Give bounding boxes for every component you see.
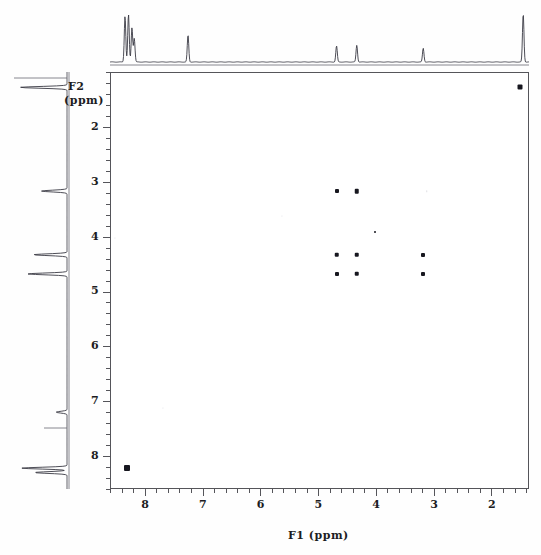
y-axis-major-tick <box>103 456 110 457</box>
y-axis-major-tick <box>103 346 110 347</box>
x-axis-minor-tick <box>295 489 296 493</box>
cross-peak <box>421 253 425 257</box>
y-axis-tick-label: 7 <box>91 394 99 407</box>
f1-1d-projection <box>110 10 529 68</box>
x-axis-minor-tick <box>387 489 388 493</box>
y-axis-major-tick <box>103 182 110 183</box>
x-axis-tick-label: 8 <box>141 498 149 511</box>
x-axis-title: F1 (ppm) <box>288 529 349 542</box>
y-axis-tick-label: 5 <box>91 284 99 297</box>
x-axis-major-tick <box>376 489 377 496</box>
x-axis-minor-tick <box>272 489 273 493</box>
x-axis-minor-tick <box>353 489 354 493</box>
faint-artifact-peak <box>281 215 282 216</box>
cross-peak <box>335 272 339 276</box>
nmr-spectrum-figure: F2 (ppm) F1 (ppm) 8765432 2345678 <box>0 0 541 555</box>
cross-peak <box>335 189 339 193</box>
y-axis-tick-label: 2 <box>91 120 99 133</box>
f1-projection-path <box>110 15 529 62</box>
x-axis-major-tick <box>434 489 435 496</box>
x-axis-minor-tick <box>133 489 134 493</box>
x-axis-minor-tick <box>191 489 192 493</box>
cross-peak <box>518 85 523 90</box>
x-axis-minor-tick <box>330 489 331 493</box>
x-axis-minor-tick <box>445 489 446 493</box>
y-axis-minor-tick <box>106 489 110 490</box>
x-axis-minor-tick <box>422 489 423 493</box>
x-axis-minor-tick <box>399 489 400 493</box>
faint-artifact-peak <box>163 407 164 408</box>
x-axis-tick-label: 4 <box>372 498 380 511</box>
x-axis-minor-tick <box>226 489 227 493</box>
y-axis-tick-label: 4 <box>91 230 99 243</box>
x-axis-minor-tick <box>364 489 365 493</box>
cross-peak <box>355 272 360 277</box>
x-axis-major-tick <box>491 489 492 496</box>
cross-peak-layer <box>110 72 529 489</box>
x-axis-minor-tick <box>307 489 308 493</box>
y-axis-title-line1: F2 <box>68 80 84 93</box>
x-axis-minor-tick <box>283 489 284 493</box>
y-axis-major-tick <box>103 127 110 128</box>
x-axis-minor-tick <box>457 489 458 493</box>
x-axis-minor-tick <box>341 489 342 493</box>
x-axis-tick-label: 3 <box>430 498 438 511</box>
y-axis-tick-label: 3 <box>91 175 99 188</box>
x-axis-major-tick <box>145 489 146 496</box>
x-axis-major-tick <box>260 489 261 496</box>
y-axis-tick-label: 8 <box>91 449 99 462</box>
x-axis-tick-label: 6 <box>257 498 265 511</box>
cross-peak <box>355 252 360 257</box>
x-axis-tick-label: 7 <box>199 498 207 511</box>
x-axis-minor-tick <box>468 489 469 493</box>
x-axis-tick-label: 2 <box>488 498 496 511</box>
x-axis-minor-tick <box>515 489 516 493</box>
x-axis-tick-label: 5 <box>315 498 323 511</box>
x-axis-minor-tick <box>237 489 238 493</box>
faint-artifact-peak <box>426 190 428 192</box>
x-axis-minor-tick <box>156 489 157 493</box>
x-axis-minor-tick <box>122 489 123 493</box>
f2-projection-path <box>21 72 67 489</box>
y-axis-major-tick <box>103 237 110 238</box>
x-axis-major-tick <box>203 489 204 496</box>
x-axis-major-tick <box>318 489 319 496</box>
x-axis-minor-tick <box>480 489 481 493</box>
cross-peak <box>334 252 339 257</box>
x-axis-minor-tick <box>168 489 169 493</box>
x-axis-minor-tick <box>411 489 412 493</box>
cross-peak <box>374 231 376 233</box>
x-axis-minor-tick <box>503 489 504 493</box>
x-axis-minor-tick <box>179 489 180 493</box>
cross-peak <box>124 465 130 471</box>
x-axis-minor-tick <box>110 489 111 493</box>
x-axis-minor-tick <box>249 489 250 493</box>
f2-1d-projection <box>14 72 70 489</box>
faint-artifact-peak <box>114 238 115 239</box>
y-axis-tick-label: 6 <box>91 339 99 352</box>
x-axis-minor-tick <box>526 489 527 493</box>
cross-peak <box>421 272 425 276</box>
y-axis-title-line2: (ppm) <box>64 94 104 107</box>
y-axis-major-tick <box>103 401 110 402</box>
y-axis-major-tick <box>103 292 110 293</box>
x-axis-minor-tick <box>214 489 215 493</box>
cross-peak <box>355 189 360 194</box>
